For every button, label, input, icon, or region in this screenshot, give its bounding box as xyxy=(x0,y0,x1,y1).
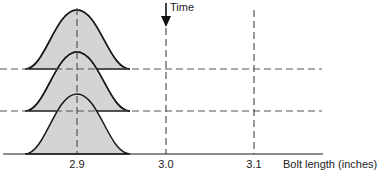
x-tick-3-0: 3.0 xyxy=(158,158,173,170)
time-label: Time xyxy=(170,1,194,13)
x-axis-label: Bolt length (inches) xyxy=(283,158,377,170)
x-tick-3-1: 3.1 xyxy=(246,158,261,170)
bolt-length-diagram: Time 2.9 3.0 3.1 Bolt length (inches) xyxy=(0,0,379,174)
x-tick-2-9: 2.9 xyxy=(69,158,84,170)
